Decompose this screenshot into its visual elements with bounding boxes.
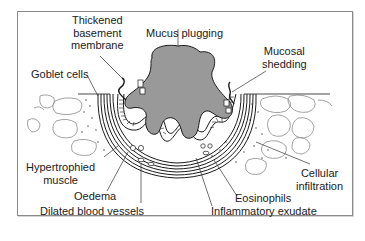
tissue-cells-left xyxy=(28,95,97,156)
label-line: Thickened xyxy=(71,14,124,27)
label-cellular-infiltration: Cellular infiltration xyxy=(296,167,343,192)
label-goblet-cells: Goblet cells xyxy=(31,68,88,81)
label-mucus-plugging: Mucus plugging xyxy=(146,27,223,40)
label-line: Mucosal xyxy=(262,45,307,58)
label-hypertrophied-muscle: Hypertrophied muscle xyxy=(26,161,95,186)
label-line: muscle xyxy=(26,174,95,187)
label-mucosal-shedding: Mucosal shedding xyxy=(262,45,307,70)
label-dilated-blood-vessels: Dilated blood vessels xyxy=(40,205,144,218)
label-line: Cellular xyxy=(296,167,343,180)
label-oedema: Oedema xyxy=(74,190,116,203)
label-inflammatory-exudate: Inflammatory exudate xyxy=(211,205,317,218)
tissue-cells-right xyxy=(245,95,332,174)
label-line: shedding xyxy=(262,58,307,71)
label-eosinophils: Eosinophils xyxy=(235,192,291,205)
label-thickened-basement-membrane: Thickened basement membrane xyxy=(71,14,124,52)
label-line: infiltration xyxy=(296,180,343,193)
label-line: basement xyxy=(71,27,124,40)
basement-membrane-strand xyxy=(119,78,126,100)
label-line: Hypertrophied xyxy=(26,161,95,174)
label-line: membrane xyxy=(71,39,124,52)
